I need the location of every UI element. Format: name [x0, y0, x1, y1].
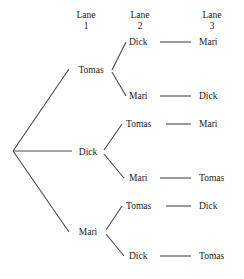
lane-header-3-number: 3 [182, 21, 242, 32]
lane3-node-3: Mari [199, 119, 217, 130]
edge-dick-mari [104, 154, 124, 178]
lane-header-2-word: Lane [110, 10, 170, 21]
lane2-node-3: Tomas [126, 119, 151, 130]
edge-root-tomas [13, 69, 69, 151]
lane3-node-1: Mari [199, 37, 217, 48]
lane2-node-1: Dick [129, 37, 147, 48]
lane-header-1-word: Lane [56, 10, 116, 21]
edge-tomas-dick [112, 42, 126, 70]
edge-root-mari [13, 151, 69, 232]
lane-header-1-number: 1 [56, 21, 116, 32]
lane1-node-dick: Dick [79, 147, 97, 158]
tree-diagram-figure: Lane 1 Lane 2 Lane 3 Tomas Dick Mari Dic… [0, 0, 244, 279]
lane-header-2: Lane 2 [110, 10, 170, 32]
lane2-node-2: Mari [129, 91, 147, 102]
edge-mari-dick [106, 234, 124, 256]
lane3-node-5: Dick [199, 201, 217, 212]
lane1-node-mari: Mari [79, 227, 97, 238]
lane2-node-6: Dick [129, 251, 147, 262]
edge-mari-tomas [106, 206, 122, 230]
edge-dick-tomas [104, 124, 122, 150]
lane-header-3-word: Lane [182, 10, 242, 21]
lane3-node-2: Dick [199, 91, 217, 102]
lane-header-3: Lane 3 [182, 10, 242, 32]
lane2-node-4: Mari [129, 173, 147, 184]
lane3-node-6: Tomas [199, 251, 224, 262]
lane2-node-5: Tomas [126, 201, 151, 212]
edge-tomas-mari [112, 72, 126, 96]
lane3-node-4: Tomas [199, 173, 224, 184]
lane1-node-tomas: Tomas [78, 65, 103, 76]
lane-header-1: Lane 1 [56, 10, 116, 32]
lane-header-2-number: 2 [110, 21, 170, 32]
